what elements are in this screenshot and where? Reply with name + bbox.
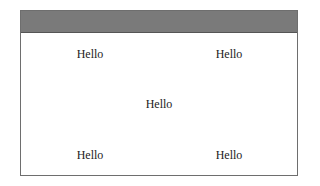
label-center: Hello	[146, 97, 173, 111]
label-bottom-left: Hello	[77, 148, 104, 162]
label-top-right: Hello	[216, 47, 243, 61]
title-bar[interactable]	[21, 11, 297, 33]
label-top-left: Hello	[77, 47, 104, 61]
window: Hello Hello Hello Hello Hello	[20, 10, 298, 176]
label-bottom-right: Hello	[216, 148, 243, 162]
